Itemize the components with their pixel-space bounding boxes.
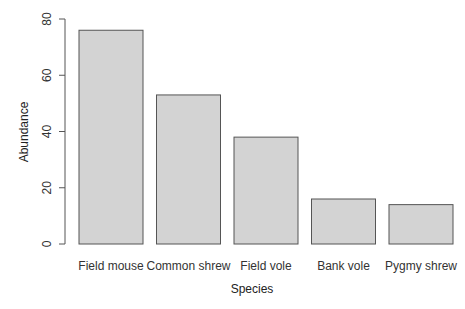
x-tick-label: Bank vole — [317, 259, 370, 273]
x-tick-label: Common shrew — [146, 259, 230, 273]
bar-chart: 020406080 Field mouseCommon shrewField v… — [0, 0, 465, 309]
y-tick-label: 40 — [40, 125, 54, 139]
y-axis-label: Abundance — [17, 101, 31, 162]
x-tick-label: Pygmy shrew — [385, 259, 457, 273]
bar — [389, 205, 453, 244]
bar — [234, 137, 298, 244]
x-tick-labels: Field mouseCommon shrewField voleBank vo… — [78, 259, 457, 273]
x-tick-label: Field vole — [240, 259, 292, 273]
y-tick-label: 80 — [40, 12, 54, 26]
bars — [79, 30, 453, 244]
x-tick-label: Field mouse — [78, 259, 144, 273]
y-tick-label: 20 — [40, 181, 54, 195]
x-axis-label: Species — [231, 282, 274, 296]
y-tick-label: 60 — [40, 68, 54, 82]
bar — [79, 30, 143, 244]
bar — [312, 199, 376, 244]
y-axis: 020406080 — [40, 12, 65, 247]
bar — [157, 95, 221, 244]
y-tick-label: 0 — [40, 240, 54, 247]
